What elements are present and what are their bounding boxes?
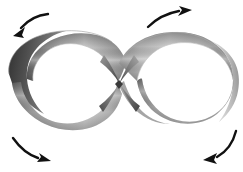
figure-eight-band-illustration — [0, 0, 243, 172]
figure-canvas: Figure-eight twisted band with rotation … — [0, 0, 243, 172]
